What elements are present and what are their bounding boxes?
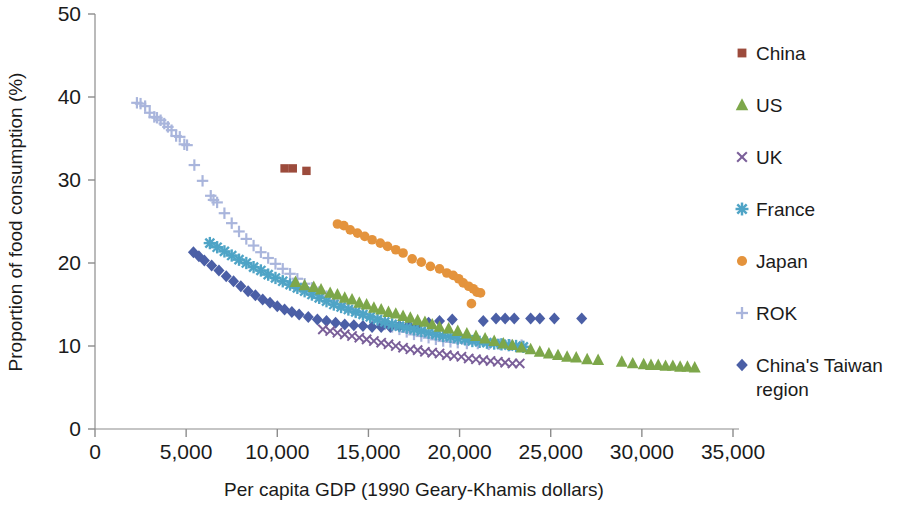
- marker-square: [738, 49, 747, 58]
- legend-item-france[interactable]: France: [736, 199, 816, 220]
- legend-item-rok[interactable]: ROK: [736, 303, 798, 324]
- marker-triangle: [627, 357, 639, 368]
- data-point: [561, 350, 573, 361]
- data-point: [398, 248, 408, 258]
- data-point: [452, 325, 464, 336]
- legend-label: China's Taiwan: [756, 355, 883, 376]
- marker-triangle: [290, 276, 302, 287]
- chart-canvas: 01020304050 05,00010,00015,00020,00025,0…: [0, 0, 901, 506]
- marker-circle: [407, 254, 417, 264]
- series-china: [280, 164, 310, 175]
- x-axis-tick-label: 20,000: [427, 440, 491, 463]
- data-point: [534, 313, 545, 325]
- data-point: [476, 288, 486, 298]
- x-axis-tick-label: 0: [89, 440, 101, 463]
- legend-marker-plus-icon: [736, 307, 748, 319]
- marker-triangle: [461, 327, 473, 338]
- marker-circle: [737, 256, 747, 266]
- legend-item-uk[interactable]: UK: [737, 147, 783, 168]
- data-point: [616, 355, 628, 366]
- legend-marker-cross-icon: [737, 152, 747, 162]
- data-point: [303, 311, 314, 323]
- data-point: [330, 317, 341, 329]
- data-point: [467, 299, 477, 309]
- data-point: [219, 207, 230, 218]
- marker-diamond: [478, 315, 489, 327]
- marker-square: [280, 164, 288, 172]
- marker-triangle: [616, 355, 628, 366]
- legend-label: UK: [756, 147, 783, 168]
- x-axis: 05,00010,00015,00020,00025,00030,00035,0…: [89, 429, 765, 463]
- data-point: [262, 252, 273, 263]
- data-point: [255, 246, 266, 257]
- legend-item-china[interactable]: China: [738, 43, 806, 64]
- data-points-layer: [131, 97, 700, 372]
- series-japan: [333, 219, 486, 308]
- data-point: [302, 167, 310, 175]
- data-point: [576, 313, 587, 325]
- marker-square: [302, 167, 310, 175]
- data-point: [241, 233, 252, 244]
- marker-diamond: [348, 319, 359, 331]
- legend-marker-square-icon: [738, 49, 747, 58]
- y-axis: 01020304050: [58, 2, 95, 440]
- legend-label: US: [756, 95, 782, 116]
- data-point: [552, 349, 564, 360]
- legend-marker-triangle-icon: [736, 98, 749, 110]
- legend-label: China: [756, 43, 806, 64]
- x-axis-tick-label: 30,000: [610, 440, 674, 463]
- data-point: [416, 257, 426, 267]
- data-point: [348, 319, 359, 331]
- legend: ChinaUSUKFranceJapanROKChina's Taiwanreg…: [736, 43, 883, 400]
- legend-label-line2: region: [756, 379, 809, 400]
- marker-diamond: [534, 313, 545, 325]
- data-point: [479, 332, 491, 343]
- legend-marker-circle-icon: [737, 256, 747, 266]
- marker-circle: [398, 248, 408, 258]
- marker-diamond: [303, 311, 314, 323]
- data-point: [312, 313, 323, 325]
- marker-triangle: [543, 347, 555, 358]
- marker-triangle: [552, 349, 564, 360]
- marker-triangle: [736, 98, 749, 110]
- data-point: [515, 359, 524, 368]
- legend-item-us[interactable]: US: [736, 95, 783, 116]
- data-point: [581, 353, 593, 364]
- y-axis-title: Proportion of food consumption (%): [5, 73, 26, 372]
- y-axis-tick-label: 10: [58, 334, 81, 357]
- data-point: [543, 347, 555, 358]
- marker-triangle: [570, 351, 582, 362]
- x-axis-tick-label: 15,000: [336, 440, 400, 463]
- x-axis-tick-label: 25,000: [519, 440, 583, 463]
- data-point: [426, 261, 436, 271]
- data-point: [248, 240, 259, 251]
- data-point: [461, 327, 473, 338]
- marker-diamond: [330, 317, 341, 329]
- marker-diamond: [549, 313, 560, 325]
- marker-triangle: [479, 332, 491, 343]
- data-point: [290, 276, 302, 287]
- marker-circle: [426, 261, 436, 271]
- legend-item-china-s-taiwan-region[interactable]: China's Taiwanregion: [736, 355, 883, 400]
- legend-marker-diamond-icon: [736, 359, 748, 372]
- data-point: [280, 164, 288, 172]
- scatter-chart: 01020304050 05,00010,00015,00020,00025,0…: [0, 0, 901, 506]
- data-point: [189, 159, 200, 170]
- marker-circle: [476, 288, 486, 298]
- data-point: [233, 226, 244, 237]
- y-axis-tick-label: 50: [58, 2, 81, 25]
- y-axis-tick-label: 40: [58, 85, 81, 108]
- marker-diamond: [576, 313, 587, 325]
- marker-triangle: [581, 353, 593, 364]
- y-axis-tick-label: 30: [58, 168, 81, 191]
- data-point: [549, 313, 560, 325]
- data-point: [570, 351, 582, 362]
- legend-label: Japan: [756, 251, 808, 272]
- data-point: [534, 345, 546, 356]
- data-point: [509, 313, 520, 325]
- marker-triangle: [592, 354, 604, 365]
- legend-item-japan[interactable]: Japan: [737, 251, 808, 272]
- legend-marker-asterisk-icon: [736, 203, 749, 216]
- legend-label: ROK: [756, 303, 798, 324]
- data-point: [627, 357, 639, 368]
